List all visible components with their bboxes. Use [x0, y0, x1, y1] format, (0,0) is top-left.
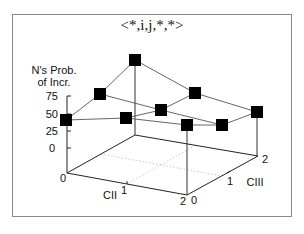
marker-cii1-ciii2 — [189, 87, 201, 99]
cii-tick-1: 1 — [121, 184, 127, 196]
marker-cii2-ciii1 — [216, 119, 228, 131]
base-grid — [101, 145, 222, 184]
marker-cii1-ciii1 — [155, 104, 167, 116]
z-axis — [67, 96, 230, 184]
drop-lines — [135, 60, 257, 195]
marker-cii0-ciii1 — [94, 88, 106, 100]
chart-title: <*,i,j,*,*> — [121, 17, 184, 33]
z-axis-label-line2: of Incr. — [37, 76, 70, 88]
z-tick-0: 0 — [49, 142, 55, 154]
cii-tick-2: 2 — [180, 195, 186, 207]
z-axis-label-line1: N's Prob. — [32, 64, 77, 76]
cii-axis-label: CII — [103, 189, 117, 201]
z-tick-75: 75 — [46, 90, 58, 102]
marker-cii2-ciii2 — [251, 106, 263, 118]
ciii-tick-1: 1 — [227, 175, 233, 187]
marker-cii2-ciii0 — [181, 119, 193, 131]
z-tick-25: 25 — [46, 125, 58, 137]
ciii-axis-label: CIII — [246, 176, 263, 188]
cii-tick-0: 0 — [60, 172, 66, 184]
ciii-tick-2: 2 — [262, 153, 268, 165]
chart-plot: <*,i,j,*,*> N's Prob. of Incr. 75 50 25 … — [0, 0, 304, 234]
ciii-tick-0: 0 — [191, 194, 197, 206]
marker-cii1-ciii0 — [120, 112, 132, 124]
z-tick-50: 50 — [46, 108, 58, 120]
marker-cii0-ciii0 — [60, 114, 72, 126]
marker-cii0-ciii2 — [129, 54, 141, 66]
